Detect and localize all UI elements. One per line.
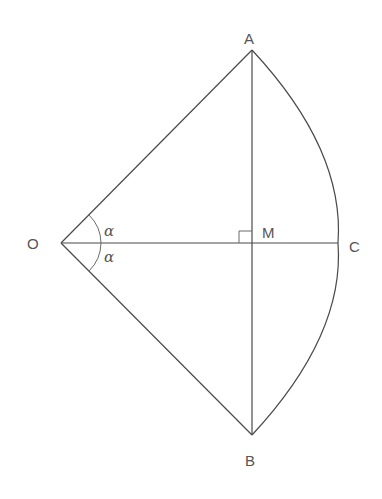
segment-OB (61, 243, 252, 435)
label-alpha-upper: α (104, 222, 114, 240)
segment-OA (61, 50, 252, 243)
right-angle-marker (239, 231, 252, 243)
label-C: C (349, 238, 360, 255)
diagram-canvas: A B O M C α α (0, 0, 382, 499)
label-A: A (244, 30, 254, 47)
label-M: M (262, 224, 275, 241)
label-O: O (27, 235, 39, 252)
label-B: B (245, 452, 255, 469)
label-alpha-lower: α (104, 248, 114, 266)
